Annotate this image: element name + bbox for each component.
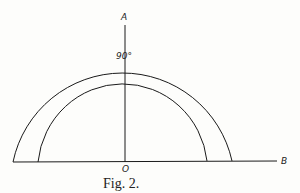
label-b: B xyxy=(281,156,287,166)
inner-semicircle xyxy=(38,84,207,162)
baseline-ob xyxy=(13,161,277,162)
label-a: A xyxy=(120,12,127,22)
outer-semicircle xyxy=(13,73,232,162)
label-angle-90: 90° xyxy=(116,51,132,61)
label-origin: O xyxy=(122,164,129,174)
figure-diagram: A B O 90° Fig. 2. xyxy=(0,0,300,193)
figure-caption: Fig. 2. xyxy=(103,176,139,191)
